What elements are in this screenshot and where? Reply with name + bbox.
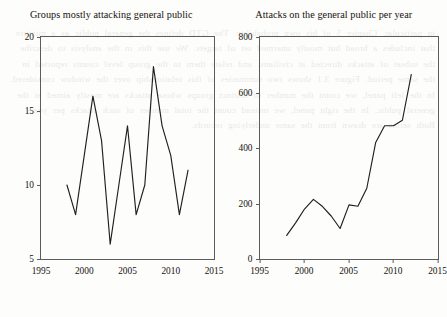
attacks-ytick-400: 400 [238,143,259,153]
attacks-ytick-800: 800 [238,32,259,42]
attacks-series-line [260,37,438,259]
groups-xtick-2005: 2005 [118,259,137,276]
attacks-xtick-2005: 2005 [339,259,358,276]
groups-xtick-2015: 2015 [205,259,224,276]
attacks-plot-area: 800 600 400 200 0 1995 2000 2005 2010 20… [259,36,439,260]
groups-ytick-20: 20 [25,32,41,42]
groups-series-line [41,37,214,259]
groups-xtick-2010: 2010 [161,259,180,276]
attacks-ytick-600: 600 [238,88,259,98]
attacks-ytick-200: 200 [238,199,259,209]
attacks-panel: Attacks on the general public per year 8… [223,0,446,317]
attacks-xtick-2000: 2000 [295,259,314,276]
attacks-xtick-2010: 2010 [384,259,403,276]
groups-xtick-1995: 1995 [32,259,51,276]
groups-xtick-2000: 2000 [75,259,94,276]
groups-plot-area: 20 15 10 5 1995 2000 2005 2010 2015 [40,36,215,260]
attacks-xtick-1995: 1995 [250,259,269,276]
attacks-xtick-2015: 2015 [428,259,447,276]
groups-ytick-15: 15 [25,106,41,116]
groups-panel: Groups mostly attacking general public 2… [0,0,223,317]
groups-panel-title: Groups mostly attacking general public [0,9,223,20]
groups-ytick-10: 10 [25,180,41,190]
attacks-panel-title: Attacks on the general public per year [223,9,446,20]
